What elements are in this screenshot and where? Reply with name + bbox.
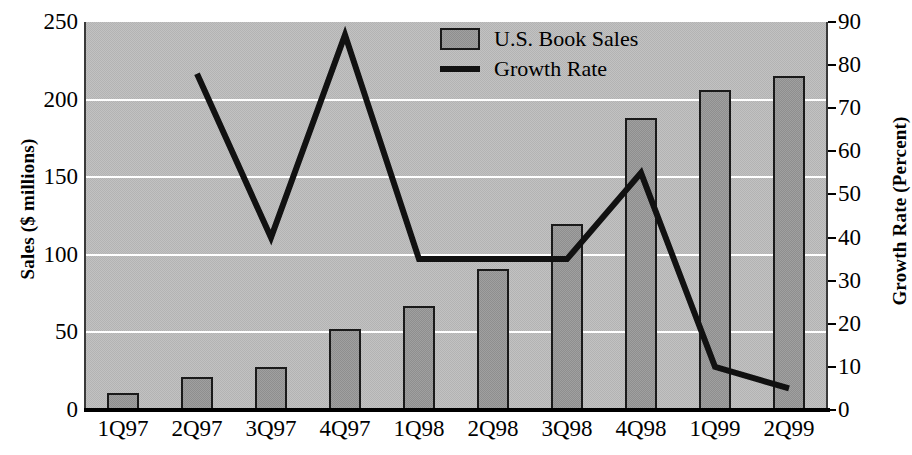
y-axis-right-tick-label: 70	[838, 96, 898, 119]
y-axis-right-tick-label: 0	[838, 398, 898, 421]
x-axis-tick-label: 2Q97	[160, 414, 234, 444]
x-axis-tick-label: 2Q98	[456, 414, 530, 444]
legend-box-swatch-icon	[440, 28, 480, 50]
y-axis-right-tick-mark	[828, 193, 836, 195]
chart-container: Sales ($ millions) Growth Rate (Percent)…	[0, 0, 912, 455]
x-axis-tick-label: 4Q98	[604, 414, 678, 444]
x-axis-line	[84, 408, 830, 412]
y-axis-right-tick-mark	[828, 323, 836, 325]
y-axis-right-tick-label: 90	[838, 10, 898, 33]
y-axis-right-tick-label: 20	[838, 312, 898, 335]
y-axis-right-tick-mark	[828, 107, 836, 109]
y-axis-right-tick-mark	[828, 21, 836, 23]
y-axis-left-tick-label: 100	[18, 243, 78, 266]
x-axis-tick-label: 3Q97	[234, 414, 308, 444]
chart-legend: U.S. Book Sales Growth Rate	[440, 24, 660, 84]
y-axis-right-ticks: 9080706050403020100	[838, 0, 898, 455]
y-axis-right-tick-mark	[828, 280, 836, 282]
legend-label-growth-rate: Growth Rate	[494, 57, 607, 81]
legend-label-us-book-sales: U.S. Book Sales	[494, 27, 638, 51]
y-axis-left-tick-label: 50	[18, 320, 78, 343]
y-axis-right-tick-label: 30	[838, 269, 898, 292]
y-axis-right-tick-label: 40	[838, 226, 898, 249]
y-axis-right-line	[826, 22, 828, 410]
y-axis-right-tick-label: 60	[838, 139, 898, 162]
y-axis-left-line	[84, 22, 86, 410]
y-axis-left-tick-label: 250	[18, 10, 78, 33]
y-axis-right-tick-label: 50	[838, 182, 898, 205]
y-axis-right-tick-mark	[828, 64, 836, 66]
x-axis-tick-label: 4Q97	[308, 414, 382, 444]
y-axis-right-tick-mark	[828, 150, 836, 152]
y-axis-right-tick-label: 10	[838, 355, 898, 378]
y-axis-left-tick-label: 0	[18, 398, 78, 421]
y-axis-right-tick-label: 80	[838, 53, 898, 76]
y-axis-right-tick-mark	[828, 409, 836, 411]
y-axis-left-ticks: 250200150100500	[10, 0, 78, 455]
legend-item-growth-rate: Growth Rate	[440, 54, 660, 84]
legend-item-us-book-sales: U.S. Book Sales	[440, 24, 660, 54]
x-axis-tick-label: 1Q98	[382, 414, 456, 444]
x-axis-tick-label: 3Q98	[530, 414, 604, 444]
x-axis-tick-label: 2Q99	[752, 414, 826, 444]
y-axis-left-tick-label: 150	[18, 165, 78, 188]
x-axis-tick-labels: 1Q972Q973Q974Q971Q982Q983Q984Q981Q992Q99	[86, 414, 826, 454]
y-axis-left-tick-label: 200	[18, 88, 78, 111]
y-axis-right-tick-mark	[828, 237, 836, 239]
x-axis-tick-label: 1Q99	[678, 414, 752, 444]
legend-line-swatch-icon	[440, 66, 480, 72]
x-axis-tick-label: 1Q97	[86, 414, 160, 444]
y-axis-right-tick-mark	[828, 366, 836, 368]
